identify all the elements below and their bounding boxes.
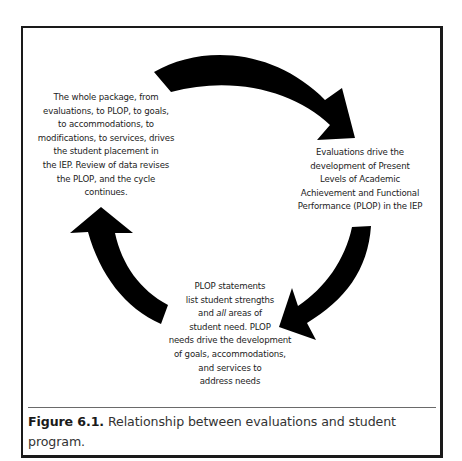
caption-divider [28,407,436,408]
node-bottom-line: student need. PLOP [152,321,308,335]
node-left-text: The whole package, from evaluations, to … [26,91,186,200]
node-bottom-line: address needs [152,375,308,389]
node-left-line: the student placement in [26,145,186,159]
node-right-line: Achievement and Functional [286,187,434,201]
figure-caption: Figure 6.1. Relationship between evaluat… [28,412,428,452]
emphasis-all: all [216,308,226,318]
node-right-line: development of Present [286,160,434,174]
node-bottom-line: list student strengths [152,294,308,308]
text-segment: and [198,308,216,318]
node-left-line: continues. [26,186,186,200]
node-left-line: the PLOP, and the cycle [26,173,186,187]
node-right-line: Performance (PLOP) in the IEP [286,200,434,214]
node-left-line: to accommodations, to [26,118,186,132]
figure-label: Figure 6.1. [28,414,104,429]
node-bottom-line: of goals, accommodations, [152,348,308,362]
node-bottom-line: PLOP statements [152,280,308,294]
node-bottom-line-mixed: and all areas of [152,307,308,321]
cycle-diagram [0,0,462,461]
node-left-line: evaluations, to PLOP, to goals, [26,105,186,119]
node-bottom-line: needs drive the development [152,334,308,348]
node-bottom-line: and services to [152,362,308,376]
node-right-line: Levels of Academic [286,173,434,187]
node-right-line: Evaluations drive the [286,146,434,160]
node-left-line: The whole package, from [26,91,186,105]
node-bottom-text: PLOP statements list student strengths a… [152,280,308,389]
node-left-line: modifications, to services, drives [26,132,186,146]
text-segment: areas of [226,308,262,318]
node-right-text: Evaluations drive the development of Pre… [286,146,434,214]
node-left-line: the IEP. Review of data revises [26,159,186,173]
